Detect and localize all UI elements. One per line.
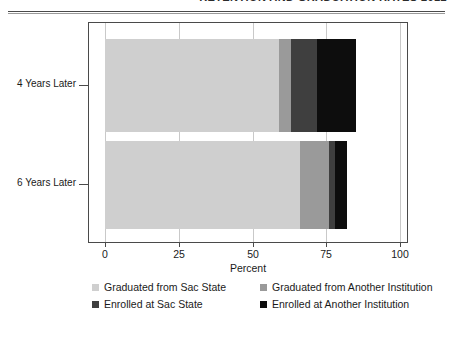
bar-segment xyxy=(300,141,330,229)
legend-swatch-icon xyxy=(92,301,99,308)
bar-segment xyxy=(105,39,279,132)
bar-segment xyxy=(335,141,347,229)
y-axis-label: 4 Years Later xyxy=(4,78,76,89)
legend-item[interactable]: Enrolled at Another Institution xyxy=(260,298,409,310)
gridline-100 xyxy=(400,23,401,242)
legend-label: Enrolled at Another Institution xyxy=(272,298,409,310)
bar-segment xyxy=(279,39,291,132)
x-axis-tick xyxy=(105,242,106,247)
x-axis-title: Percent xyxy=(208,262,288,274)
header-title: RETENTION AND GRADUATION RATES 2012 xyxy=(199,0,447,3)
legend-label: Graduated from Sac State xyxy=(104,281,226,293)
chart-legend: Graduated from Sac StateGraduated from A… xyxy=(92,281,432,315)
y-axis-label: 6 Years Later xyxy=(4,177,76,188)
bar-segment xyxy=(317,39,355,132)
x-axis-tick-label: 50 xyxy=(233,248,273,260)
legend-item[interactable]: Graduated from Sac State xyxy=(92,281,226,293)
bar-segment xyxy=(291,39,318,132)
y-axis-tick xyxy=(79,184,88,185)
header-rule xyxy=(8,11,445,12)
legend-item[interactable]: Graduated from Another Institution xyxy=(260,281,433,293)
y-axis-tick xyxy=(79,85,88,86)
chart-page: RETENTION AND GRADUATION RATES 2012 4 Ye… xyxy=(0,0,453,337)
x-axis-tick xyxy=(326,242,327,247)
legend-item[interactable]: Enrolled at Sac State xyxy=(92,298,203,310)
legend-label: Enrolled at Sac State xyxy=(104,298,203,310)
legend-swatch-icon xyxy=(260,284,267,291)
plot-area xyxy=(88,22,408,243)
legend-swatch-icon xyxy=(92,284,99,291)
header-rule-secondary xyxy=(8,13,445,14)
x-axis-tick-label: 0 xyxy=(85,248,125,260)
bar-segment xyxy=(105,141,300,229)
x-axis-tick xyxy=(253,242,254,247)
plot-inner xyxy=(89,23,407,242)
x-axis-tick-label: 25 xyxy=(159,248,199,260)
x-axis-tick xyxy=(400,242,401,247)
legend-swatch-icon xyxy=(260,301,267,308)
legend-label: Graduated from Another Institution xyxy=(272,281,433,293)
x-axis-tick-label: 75 xyxy=(306,248,346,260)
x-axis-tick-label: 100 xyxy=(380,248,420,260)
x-axis-tick xyxy=(179,242,180,247)
